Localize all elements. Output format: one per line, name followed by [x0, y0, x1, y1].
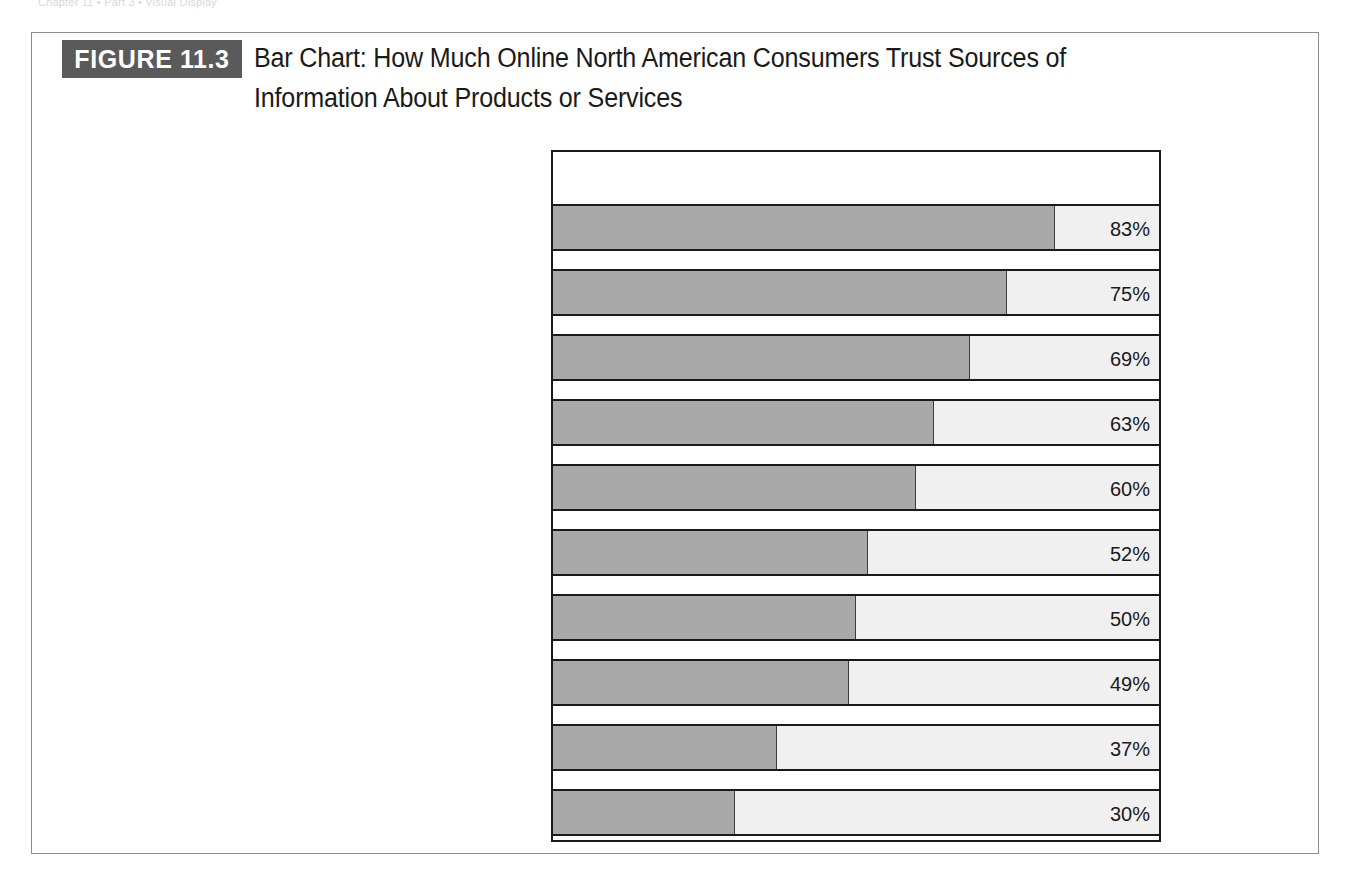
- bar-value-label: 60%: [1110, 466, 1150, 513]
- bar-rows: Opinion of a friend or acquaintance who …: [32, 33, 1320, 855]
- bar-track: 60%: [553, 464, 1159, 511]
- bar-value-label: 52%: [1110, 531, 1150, 578]
- bar-track: 49%: [553, 659, 1159, 706]
- bar-value-label: 30%: [1110, 791, 1150, 838]
- figure-frame: FIGURE 11.3 Bar Chart: How Much Online N…: [31, 32, 1319, 854]
- bar-value-label: 75%: [1110, 271, 1150, 318]
- bar-value-label: 63%: [1110, 401, 1150, 448]
- bar-value-label: 37%: [1110, 726, 1150, 773]
- bar-track: 83%: [553, 204, 1159, 251]
- bar-track: 75%: [553, 269, 1159, 316]
- bar-fill: [553, 401, 934, 444]
- bar-fill: [553, 206, 1055, 249]
- bar-fill: [553, 726, 777, 769]
- bar-track: 37%: [553, 724, 1159, 771]
- bar-value-label: 69%: [1110, 336, 1150, 383]
- running-head: Chapter 11 • Part 3 • Visual Display: [38, 0, 458, 8]
- bar-value-label: 83%: [1110, 206, 1150, 253]
- bar-chart: Opinion of a friend or acquaintance who …: [32, 33, 1320, 855]
- bar-value-label: 50%: [1110, 596, 1150, 643]
- bar-fill: [553, 336, 970, 379]
- bar-fill: [553, 531, 868, 574]
- bar-fill: [553, 596, 856, 639]
- bar-track: 50%: [553, 594, 1159, 641]
- bar-track: 69%: [553, 334, 1159, 381]
- bar-fill: [553, 661, 849, 704]
- bar-fill: [553, 466, 916, 509]
- bar-track: 52%: [553, 529, 1159, 576]
- bar-value-label: 49%: [1110, 661, 1150, 708]
- bar-fill: [553, 271, 1007, 314]
- bar-fill: [553, 791, 735, 834]
- bar-track: 63%: [553, 399, 1159, 446]
- bar-track: 30%: [553, 789, 1159, 836]
